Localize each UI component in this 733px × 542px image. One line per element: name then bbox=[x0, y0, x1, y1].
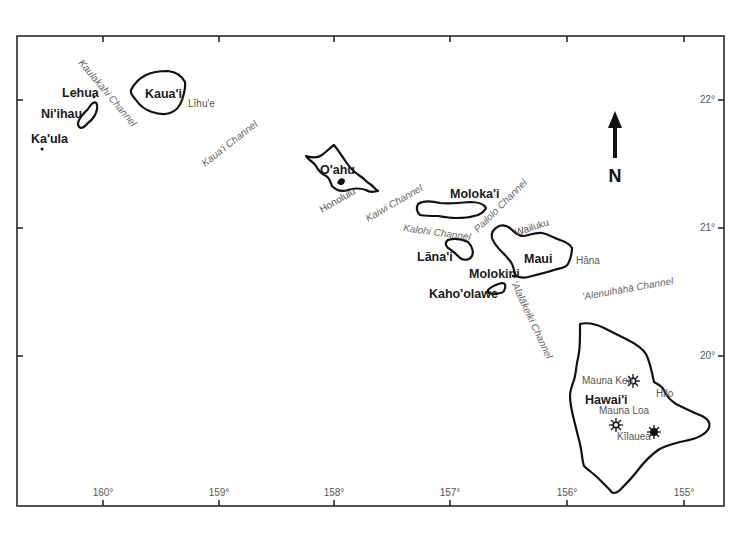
lon-label-156: 156° bbox=[557, 487, 578, 498]
lon-label-155: 155° bbox=[674, 487, 695, 498]
label-kilauea: Kīlauea bbox=[617, 431, 651, 442]
pearl-harbor-icon bbox=[338, 179, 344, 184]
label-lehua: Lehua bbox=[62, 86, 100, 100]
label-alalakeiki-channel: 'Alalākeiki Channel bbox=[509, 279, 555, 361]
label-hilo: Hilo bbox=[656, 388, 674, 399]
label-kahoolawe: Kaho'olawe bbox=[429, 287, 498, 301]
label-kauai-channel: Kaua'i Channel bbox=[199, 118, 260, 169]
left-ticks bbox=[17, 100, 23, 356]
north-label: N bbox=[609, 166, 622, 186]
label-lihue: Līhu'e bbox=[188, 98, 215, 109]
label-mauna-loa: Mauna Loa bbox=[599, 405, 649, 416]
label-molokai: Moloka'i bbox=[450, 187, 500, 201]
lat-label-21: 21° bbox=[700, 222, 715, 233]
label-hana: Hāna bbox=[576, 255, 600, 266]
lon-label-157: 157° bbox=[440, 487, 461, 498]
label-kalohi-channel: Kalohi Channel bbox=[403, 222, 472, 242]
island-kaula bbox=[41, 148, 44, 151]
label-niihau: Ni'ihau bbox=[41, 107, 82, 121]
label-alenuihaha-channel: 'Alenuihāhā Channel bbox=[581, 275, 674, 302]
lon-label-158: 158° bbox=[324, 487, 345, 498]
label-oahu: O'ahu bbox=[320, 163, 355, 177]
label-mauna-kea: Mauna Kea bbox=[582, 375, 634, 386]
island-molokai bbox=[417, 201, 486, 218]
label-kaula: Ka'ula bbox=[31, 132, 69, 146]
lon-label-159: 159° bbox=[209, 487, 230, 498]
label-kauai: Kaua'i bbox=[145, 87, 182, 101]
north-arrow: N bbox=[608, 111, 622, 186]
label-lanai: Lāna'i bbox=[417, 250, 453, 264]
latitude-axis: 22° 21° 20° bbox=[700, 94, 724, 361]
label-molokini: Molokini bbox=[469, 267, 520, 281]
lon-label-160: 160° bbox=[93, 487, 114, 498]
lat-label-20: 20° bbox=[700, 350, 715, 361]
label-maui: Maui bbox=[524, 252, 552, 266]
hawaii-map: 160° 159° 158° 157° 156° 155° 22° 21° 20… bbox=[0, 0, 733, 542]
lat-label-22: 22° bbox=[700, 94, 715, 105]
longitude-axis: 160° 159° 158° 157° 156° 155° bbox=[93, 487, 695, 506]
top-ticks bbox=[103, 36, 684, 42]
volcano-mauna-loa-icon bbox=[609, 418, 623, 432]
